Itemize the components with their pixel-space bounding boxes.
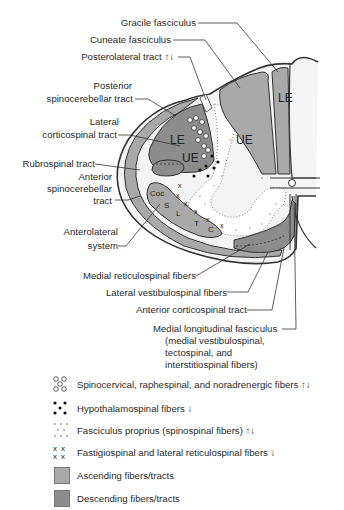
down-arrow-icon: ↓ <box>187 403 192 414</box>
label-mlf-4: interstitiospinal fibers) <box>165 359 258 370</box>
legend-item-open-circles: Spinocervical, raphespinal, and noradren… <box>52 375 311 393</box>
label-anterolateral-1: Anterolateral <box>64 226 118 237</box>
filled-dots-icon <box>52 399 72 417</box>
label-lateral-corticospinal-2: corticospinal tract <box>42 129 117 140</box>
legend-item-ascending: Ascending fibers/tracts <box>52 466 174 484</box>
svg-text:x: x <box>220 222 224 229</box>
both-direction-arrow-icon: ↑↓ <box>164 51 174 62</box>
label-mlf-1: Medial longitudinal fasciculus <box>153 323 277 334</box>
label-gracile-fasciculus: Gracile fasciculus <box>121 17 196 28</box>
label-anterior-corticospinal: Anterior corticospinal tract <box>136 304 247 315</box>
legend-text: Spinocervical, raphespinal, and noradren… <box>77 379 298 390</box>
svg-text:x: x <box>194 208 198 215</box>
ascending-swatch-icon <box>52 466 72 484</box>
legend-item-x-marks: xxxx Fastigiospinal and lateral reticulo… <box>52 443 275 461</box>
fine-dots-icon <box>52 421 72 439</box>
label-anterior-spinocerebellar-3: tract <box>93 195 112 206</box>
legend-text: Fasciculus proprius (spinospinal fibers) <box>77 425 243 436</box>
label-lateral-corticospinal-1: Lateral <box>90 116 119 127</box>
als-s-mark: S <box>164 201 169 210</box>
rubrospinal-region <box>152 160 184 176</box>
als-coc-mark: Coc <box>150 189 164 198</box>
open-circles-icon <box>52 375 72 393</box>
label-mlf-2: (medial vestibulospinal, <box>165 335 265 346</box>
svg-text:x: x <box>61 452 65 461</box>
legend-item-descending: Descending fibers/tracts <box>52 489 180 507</box>
label-rubrospinal-tract: Rubrospinal tract <box>22 158 95 169</box>
legend-item-filled-dots: Hypothalamospinal fibers ↓ <box>52 399 192 417</box>
label-mlf-3: tectospinal, and <box>165 347 232 358</box>
svg-text:x: x <box>206 216 210 223</box>
x-marks-icon: xxxx <box>52 443 72 461</box>
legend-text: Hypothalamospinal fibers <box>77 403 185 414</box>
legend-text: Ascending fibers/tracts <box>77 470 174 481</box>
legend-item-fine-dots: Fasciculus proprius (spinospinal fibers)… <box>52 421 255 439</box>
label-anterior-spinocerebellar-1: Anterior <box>78 171 112 182</box>
lcs-ue-mark: UE <box>182 151 199 165</box>
label-anterolateral-2: system <box>88 240 118 251</box>
descending-swatch-icon <box>52 489 72 507</box>
label-cuneate-fasciculus: Cuneate fasciculus <box>90 34 171 45</box>
label-medial-reticulospinal: Medial reticulospinal fibers <box>83 270 196 281</box>
down-arrow-icon: ↓ <box>271 447 276 458</box>
als-t-mark: T <box>194 219 199 228</box>
label-posterior-spinocerebellar-2: spinocerebellar tract <box>47 93 133 104</box>
cuneate-ue-mark: UE <box>236 133 253 147</box>
als-c-mark: C <box>208 225 214 234</box>
label-posterior-spinocerebellar-1: Posterior <box>94 80 132 91</box>
label-lateral-vestibulospinal: Lateral vestibulospinal fibers <box>106 287 227 298</box>
label-anterior-spinocerebellar-2: spinocerebellar <box>47 183 112 194</box>
svg-text:x: x <box>178 182 182 189</box>
svg-text:x: x <box>53 452 57 461</box>
legend-text: Fastigiospinal and lateral reticulospina… <box>77 447 268 458</box>
svg-text:x: x <box>184 200 188 207</box>
gracile-le-mark: LE <box>278 91 293 105</box>
svg-text:x: x <box>176 192 180 199</box>
legend-text: Descending fibers/tracts <box>77 493 180 504</box>
both-direction-arrow-icon: ↑↓ <box>301 379 311 390</box>
label-posterolateral-tract: Posterolateral tract ↑↓ <box>81 51 174 62</box>
als-l-mark: L <box>176 209 181 218</box>
both-direction-arrow-icon: ↑↓ <box>246 425 256 436</box>
lcs-le-mark: LE <box>170 133 185 147</box>
